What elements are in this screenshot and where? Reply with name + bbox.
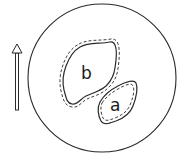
diagram-canvas: b a (0, 0, 180, 157)
outer-circle (28, 4, 176, 152)
region-b-label: b (81, 63, 92, 83)
region-a-label: a (110, 95, 120, 115)
up-arrow-icon (12, 44, 22, 110)
